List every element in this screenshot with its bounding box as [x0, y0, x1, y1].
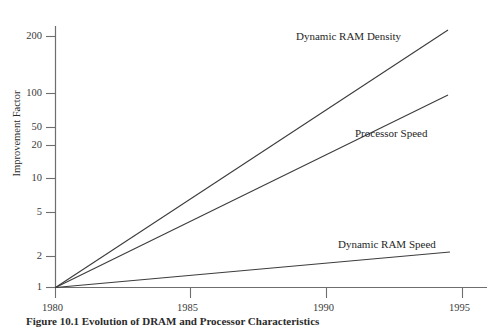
series-label-dynamic-ram-density: Dynamic RAM Density	[296, 31, 401, 42]
figure-caption: Figure 10.1 Evolution of DRAM and Proces…	[26, 315, 319, 327]
y-tick-label-1: 1	[14, 282, 42, 293]
y-axis-ticks	[46, 37, 56, 288]
y-tick-label-100: 100	[14, 88, 42, 99]
x-axis-ticks	[56, 288, 463, 299]
y-tick-label-10: 10	[14, 173, 42, 184]
y-tick-label-2: 2	[14, 251, 42, 262]
series-line-dynamic-ram-speed	[56, 252, 451, 288]
x-tick-label-1980: 1980	[42, 303, 63, 314]
x-tick-label-1990: 1990	[313, 303, 334, 314]
series-label-dynamic-ram-speed: Dynamic RAM Speed	[338, 239, 436, 250]
y-tick-label-50: 50	[14, 122, 42, 133]
series-line-processor-speed	[56, 95, 449, 288]
series-label-processor-speed: Processor Speed	[355, 128, 427, 139]
y-tick-label-200: 200	[14, 31, 42, 42]
y-tick-label-5: 5	[14, 207, 42, 218]
y-tick-label-20: 20	[14, 140, 42, 151]
x-tick-label-1985: 1985	[177, 303, 198, 314]
x-tick-label-1995: 1995	[449, 303, 470, 314]
